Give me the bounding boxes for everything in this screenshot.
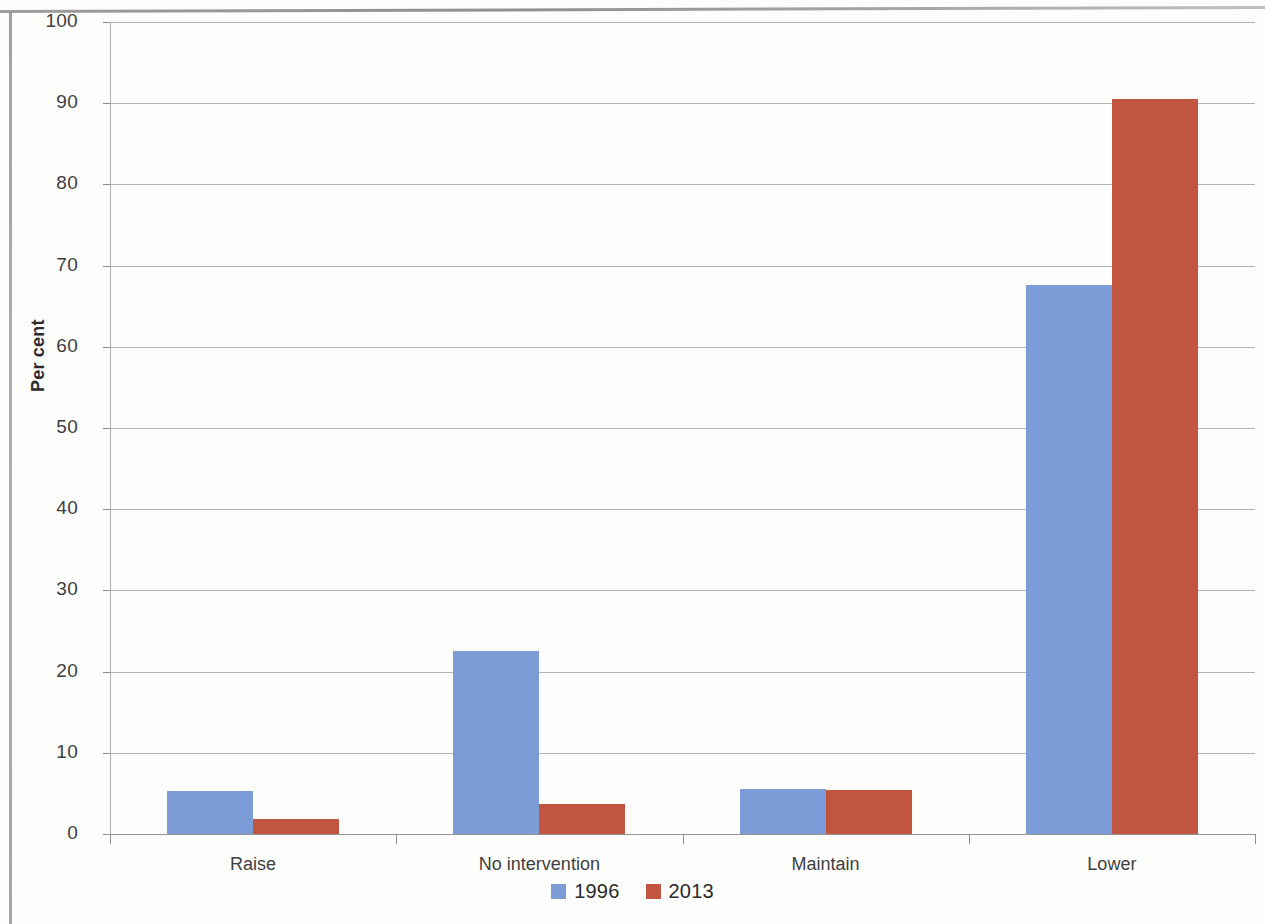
y-axis-tick-mark: [103, 266, 110, 267]
y-axis-tick-label: 60: [18, 335, 78, 357]
x-axis-tick-mark: [396, 834, 397, 844]
chart-legend: 19962013: [0, 880, 1265, 903]
x-axis-category-label: Raise: [110, 854, 396, 875]
y-axis-tick-mark: [103, 428, 110, 429]
gridline: [110, 22, 1255, 23]
bar-chart: Per cent 1009080706050403020100RaiseNo i…: [0, 0, 1265, 924]
bar-lower-2013: [1112, 99, 1198, 834]
x-axis-tick-mark: [969, 834, 970, 844]
y-axis-tick-label: 0: [18, 822, 78, 844]
legend-label: 1996: [574, 880, 619, 903]
y-axis-tick-mark: [103, 590, 110, 591]
legend-swatch-icon: [551, 884, 566, 899]
scanned-page: Per cent 1009080706050403020100RaiseNo i…: [0, 0, 1265, 924]
legend-item-2013[interactable]: 2013: [646, 880, 714, 903]
legend-label: 2013: [669, 880, 714, 903]
bar-raise-2013: [253, 819, 339, 834]
y-axis-tick-label: 10: [18, 741, 78, 763]
y-axis-tick-mark: [103, 753, 110, 754]
x-axis-tick-mark: [683, 834, 684, 844]
y-axis-tick-label: 20: [18, 660, 78, 682]
gridline: [110, 266, 1255, 267]
y-axis-tick-mark: [103, 347, 110, 348]
y-axis-tick-label: 40: [18, 497, 78, 519]
y-axis-tick-label: 100: [18, 10, 78, 32]
y-axis-tick-mark: [103, 834, 110, 835]
bar-maintain-1996: [740, 789, 826, 834]
y-axis-tick-label: 30: [18, 578, 78, 600]
bar-no-intervention-2013: [539, 804, 625, 834]
bar-no-intervention-1996: [453, 651, 539, 835]
bar-raise-1996: [167, 791, 253, 834]
bar-lower-1996: [1026, 285, 1112, 834]
plot-area: 1009080706050403020100RaiseNo interventi…: [110, 22, 1255, 834]
y-axis-tick-mark: [103, 509, 110, 510]
y-axis-tick-label: 70: [18, 254, 78, 276]
x-axis-tick-mark: [1255, 834, 1256, 844]
x-axis-tick-mark: [110, 834, 111, 844]
x-axis-category-label: Maintain: [683, 854, 969, 875]
gridline: [110, 103, 1255, 104]
y-axis-tick-mark: [103, 22, 110, 23]
y-axis-tick-mark: [103, 672, 110, 673]
y-axis-tick-label: 80: [18, 172, 78, 194]
x-axis-category-label: No intervention: [396, 854, 682, 875]
x-axis-category-label: Lower: [969, 854, 1255, 875]
y-axis-tick-label: 90: [18, 91, 78, 113]
legend-swatch-icon: [646, 884, 661, 899]
y-axis-tick-label: 50: [18, 416, 78, 438]
gridline: [110, 184, 1255, 185]
y-axis-tick-mark: [103, 184, 110, 185]
legend-item-1996[interactable]: 1996: [551, 880, 619, 903]
y-axis-tick-mark: [103, 103, 110, 104]
bar-maintain-2013: [826, 790, 912, 834]
